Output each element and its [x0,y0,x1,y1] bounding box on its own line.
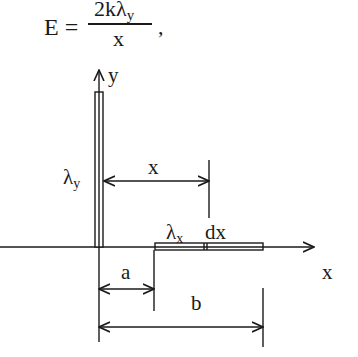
vertical-rod-label: λy [63,167,80,191]
diagram-canvas [0,0,358,357]
y-axis-label: y [108,65,119,86]
lambda: λ [63,165,73,189]
a-distance-label: a [121,262,130,283]
subscript: y [73,176,80,191]
horizontal-rod-label: λx [166,222,183,246]
lambda: λ [166,220,176,244]
subscript: x [176,231,183,246]
b-distance-label: b [191,293,202,314]
x-axis-label: x [322,262,333,283]
dx-label: dx [205,222,226,243]
x-distance-label: x [148,157,159,178]
